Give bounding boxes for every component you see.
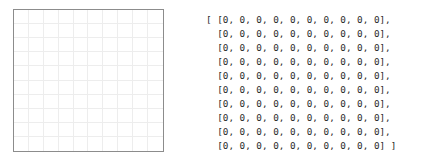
grid-cell-r7-c5[interactable]	[88, 109, 103, 123]
grid-cell-r1-c7[interactable]	[118, 24, 133, 38]
grid-cell-r0-c1[interactable]	[29, 10, 44, 24]
grid-cell-r6-c2[interactable]	[44, 95, 59, 109]
grid-cell-r8-c4[interactable]	[74, 123, 89, 137]
grid-cell-r7-c1[interactable]	[29, 109, 44, 123]
grid-cell-r7-c8[interactable]	[133, 109, 148, 123]
grid-cell-r4-c1[interactable]	[29, 66, 44, 80]
grid-cell-r1-c3[interactable]	[59, 24, 74, 38]
grid-cell-r1-c9[interactable]	[148, 24, 163, 38]
grid-cell-r6-c9[interactable]	[148, 95, 163, 109]
grid-cell-r1-c6[interactable]	[103, 24, 118, 38]
grid-cell-r8-c7[interactable]	[118, 123, 133, 137]
grid-cell-r7-c9[interactable]	[148, 109, 163, 123]
grid-cell-r4-c3[interactable]	[59, 66, 74, 80]
grid-cell-r5-c0[interactable]	[14, 81, 29, 95]
grid-cell-r9-c2[interactable]	[44, 137, 59, 151]
grid-cell-r5-c7[interactable]	[118, 81, 133, 95]
grid-cell-r6-c4[interactable]	[74, 95, 89, 109]
grid-cell-r3-c9[interactable]	[148, 52, 163, 66]
grid-cell-r6-c7[interactable]	[118, 95, 133, 109]
grid-cell-r6-c3[interactable]	[59, 95, 74, 109]
grid-cell-r7-c2[interactable]	[44, 109, 59, 123]
grid-cell-r9-c9[interactable]	[148, 137, 163, 151]
grid-cell-r5-c4[interactable]	[74, 81, 89, 95]
grid-cell-r4-c9[interactable]	[148, 66, 163, 80]
grid-cell-r9-c1[interactable]	[29, 137, 44, 151]
grid-cell-r0-c8[interactable]	[133, 10, 148, 24]
grid-cell-r1-c5[interactable]	[88, 24, 103, 38]
grid-cell-r3-c2[interactable]	[44, 52, 59, 66]
grid-cell-r2-c6[interactable]	[103, 38, 118, 52]
grid-cell-r9-c4[interactable]	[74, 137, 89, 151]
grid-cell-r9-c0[interactable]	[14, 137, 29, 151]
grid-cell-r0-c2[interactable]	[44, 10, 59, 24]
grid-cell-r2-c4[interactable]	[74, 38, 89, 52]
grid-cell-r3-c7[interactable]	[118, 52, 133, 66]
grid-cell-r0-c9[interactable]	[148, 10, 163, 24]
grid-cell-r1-c4[interactable]	[74, 24, 89, 38]
grid-cell-r8-c1[interactable]	[29, 123, 44, 137]
grid-cell-r6-c1[interactable]	[29, 95, 44, 109]
grid-cell-r0-c5[interactable]	[88, 10, 103, 24]
grid-cell-r4-c8[interactable]	[133, 66, 148, 80]
grid-cell-r8-c6[interactable]	[103, 123, 118, 137]
grid-cell-r6-c5[interactable]	[88, 95, 103, 109]
grid-cell-r8-c5[interactable]	[88, 123, 103, 137]
grid-board[interactable]	[13, 9, 164, 152]
grid-cell-r5-c6[interactable]	[103, 81, 118, 95]
grid-cell-r3-c6[interactable]	[103, 52, 118, 66]
grid-cell-r5-c2[interactable]	[44, 81, 59, 95]
grid-cell-r0-c7[interactable]	[118, 10, 133, 24]
grid-cell-r6-c0[interactable]	[14, 95, 29, 109]
grid-cell-r3-c1[interactable]	[29, 52, 44, 66]
grid-cell-r5-c8[interactable]	[133, 81, 148, 95]
grid-cell-r7-c0[interactable]	[14, 109, 29, 123]
grid-cell-r7-c7[interactable]	[118, 109, 133, 123]
grid-cell-r0-c0[interactable]	[14, 10, 29, 24]
grid-cell-r0-c3[interactable]	[59, 10, 74, 24]
grid-cell-r0-c6[interactable]	[103, 10, 118, 24]
grid-cell-r4-c7[interactable]	[118, 66, 133, 80]
grid-cell-r6-c6[interactable]	[103, 95, 118, 109]
grid-cell-r1-c0[interactable]	[14, 24, 29, 38]
grid-cell-r2-c7[interactable]	[118, 38, 133, 52]
grid-cell-r4-c2[interactable]	[44, 66, 59, 80]
grid-cell-r8-c9[interactable]	[148, 123, 163, 137]
grid-cell-r5-c1[interactable]	[29, 81, 44, 95]
grid-cell-r9-c6[interactable]	[103, 137, 118, 151]
grid-cell-r9-c8[interactable]	[133, 137, 148, 151]
grid-cell-r9-c5[interactable]	[88, 137, 103, 151]
grid-cell-r8-c2[interactable]	[44, 123, 59, 137]
grid-cell-r2-c1[interactable]	[29, 38, 44, 52]
grid-cell-r3-c8[interactable]	[133, 52, 148, 66]
grid-cell-r4-c0[interactable]	[14, 66, 29, 80]
grid-cell-r2-c3[interactable]	[59, 38, 74, 52]
grid-cell-r7-c4[interactable]	[74, 109, 89, 123]
grid-cell-r7-c3[interactable]	[59, 109, 74, 123]
grid-cell-r5-c9[interactable]	[148, 81, 163, 95]
grid-cell-r3-c4[interactable]	[74, 52, 89, 66]
grid-cell-r4-c5[interactable]	[88, 66, 103, 80]
grid-cell-r3-c3[interactable]	[59, 52, 74, 66]
grid-surface[interactable]	[14, 10, 163, 151]
grid-cell-r5-c3[interactable]	[59, 81, 74, 95]
grid-cell-r8-c0[interactable]	[14, 123, 29, 137]
grid-cell-r2-c2[interactable]	[44, 38, 59, 52]
grid-cell-r1-c8[interactable]	[133, 24, 148, 38]
grid-cell-r3-c0[interactable]	[14, 52, 29, 66]
grid-cell-r5-c5[interactable]	[88, 81, 103, 95]
grid-cell-r9-c3[interactable]	[59, 137, 74, 151]
grid-cell-r0-c4[interactable]	[74, 10, 89, 24]
grid-cell-r4-c4[interactable]	[74, 66, 89, 80]
grid-cell-r1-c2[interactable]	[44, 24, 59, 38]
grid-cell-r9-c7[interactable]	[118, 137, 133, 151]
grid-cell-r2-c5[interactable]	[88, 38, 103, 52]
grid-cell-r3-c5[interactable]	[88, 52, 103, 66]
grid-cell-r2-c0[interactable]	[14, 38, 29, 52]
grid-cell-r4-c6[interactable]	[103, 66, 118, 80]
grid-cell-r7-c6[interactable]	[103, 109, 118, 123]
grid-cell-r2-c9[interactable]	[148, 38, 163, 52]
grid-cell-r2-c8[interactable]	[133, 38, 148, 52]
grid-cell-r6-c8[interactable]	[133, 95, 148, 109]
grid-cell-r8-c8[interactable]	[133, 123, 148, 137]
